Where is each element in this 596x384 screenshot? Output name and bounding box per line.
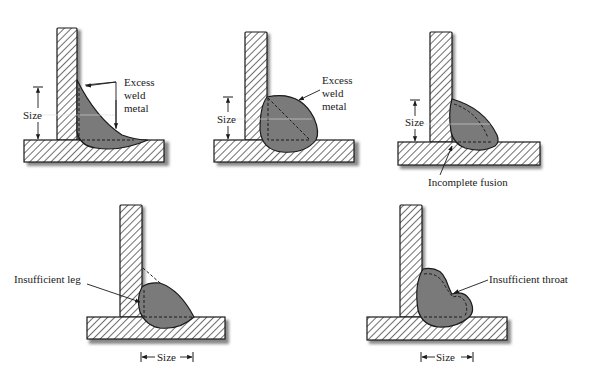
vertical-plate [430,32,452,142]
figure-incomplete-fusion: Size Incomplete fusion [398,32,542,188]
figure-insufficient-leg: Insufficient leg Size [14,205,229,363]
callout-label-line1: Excess [322,74,353,86]
callout-label: Incomplete fusion [428,176,508,188]
callout-label-line2: weld [124,89,146,101]
callout-arrow [299,90,320,100]
callout-label-line2: weld [322,87,344,99]
figure-excess-weld-concave: Size Excess weld metal [23,28,169,166]
vertical-plate [57,28,77,140]
callout-arrow-top [86,82,116,86]
callout-label: Insufficient throat [489,273,568,285]
weld-bead [260,96,318,153]
callout-arrow [454,280,488,293]
size-label: Size [23,109,42,121]
callout-label-line1: Excess [124,76,155,88]
callout-label: Insufficient leg [14,273,81,285]
weld-bead [138,283,194,328]
size-label: Size [157,351,176,363]
figure-excess-weld-convex: Size Excess weld metal [214,32,359,166]
weld-defects-diagram: Size Excess weld metal Size Excess weld … [0,0,596,384]
callout-label-line3: metal [124,102,148,114]
missing-leg-outline [143,268,160,283]
callout-label-line3: metal [322,100,346,112]
size-label: Size [436,351,455,363]
size-label: Size [217,113,236,125]
weld-bead [417,268,473,327]
figure-insufficient-throat: Insufficient throat Size [367,205,568,363]
size-label: Size [405,116,424,128]
